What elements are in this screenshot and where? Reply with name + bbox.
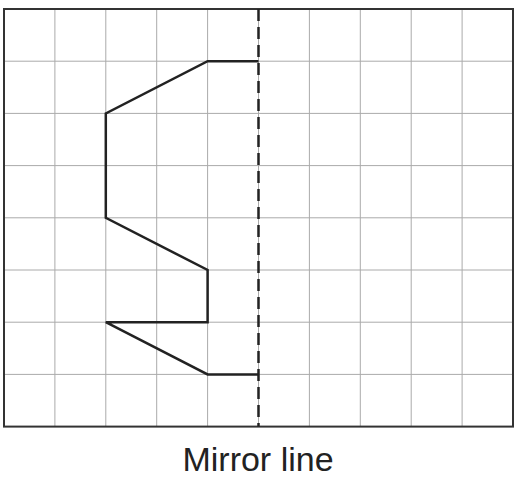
mirror-grid-diagram — [0, 0, 516, 440]
mirror-line-label: Mirror line — [0, 440, 516, 479]
